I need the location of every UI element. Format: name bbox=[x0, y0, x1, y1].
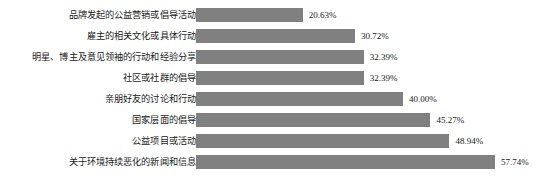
bar-row: 亲朋好友的讨论和行动 40.00% bbox=[0, 88, 557, 109]
bar-track: 57.74% bbox=[196, 151, 529, 172]
bar[interactable] bbox=[196, 29, 355, 43]
bar-row: 国家层面的倡导 45.27% bbox=[0, 109, 557, 130]
bar[interactable] bbox=[196, 92, 403, 106]
bar[interactable] bbox=[196, 155, 495, 169]
value-label: 32.39% bbox=[370, 73, 398, 83]
bar-row: 关于环境持续恶化的新闻和信息 57.74% bbox=[0, 151, 557, 172]
category-label: 亲朋好友的讨论和行动 bbox=[16, 93, 196, 104]
value-label: 48.94% bbox=[455, 136, 483, 146]
category-label: 雇主的相关文化或具体行动 bbox=[16, 30, 196, 41]
category-label: 公益项目或活动 bbox=[16, 135, 196, 146]
bar-row: 社区或社群的倡导 32.39% bbox=[0, 67, 557, 88]
bar[interactable] bbox=[196, 71, 364, 85]
bar-track: 30.72% bbox=[196, 25, 389, 46]
value-label: 32.39% bbox=[370, 52, 398, 62]
category-label: 社区或社群的倡导 bbox=[16, 72, 196, 83]
bar[interactable] bbox=[196, 113, 430, 127]
plot-area: 品牌发起的公益营销或倡导活动 20.63% 雇主的相关文化或具体行动 30.72… bbox=[0, 0, 557, 185]
bar-track: 32.39% bbox=[196, 67, 397, 88]
bar-track: 40.00% bbox=[196, 88, 437, 109]
bar-row: 明星、博主及意见领袖的行动和经验分享 32.39% bbox=[0, 46, 557, 67]
bar[interactable] bbox=[196, 134, 449, 148]
value-label: 30.72% bbox=[361, 31, 389, 41]
category-label: 国家层面的倡导 bbox=[16, 114, 196, 125]
horizontal-bar-chart: 品牌发起的公益营销或倡导活动 20.63% 雇主的相关文化或具体行动 30.72… bbox=[0, 0, 557, 185]
category-label: 关于环境持续恶化的新闻和信息 bbox=[16, 156, 196, 167]
value-label: 40.00% bbox=[409, 94, 437, 104]
bar-track: 48.94% bbox=[196, 130, 483, 151]
value-label: 57.74% bbox=[501, 157, 529, 167]
value-label: 45.27% bbox=[436, 115, 464, 125]
bar[interactable] bbox=[196, 50, 364, 64]
category-label: 明星、博主及意见领袖的行动和经验分享 bbox=[16, 51, 196, 62]
bar-row: 雇主的相关文化或具体行动 30.72% bbox=[0, 25, 557, 46]
category-label: 品牌发起的公益营销或倡导活动 bbox=[16, 9, 196, 20]
bar-track: 32.39% bbox=[196, 46, 397, 67]
bar-track: 20.63% bbox=[196, 4, 337, 25]
bar[interactable] bbox=[196, 8, 303, 22]
value-label: 20.63% bbox=[309, 10, 337, 20]
bar-row: 公益项目或活动 48.94% bbox=[0, 130, 557, 151]
bar-row: 品牌发起的公益营销或倡导活动 20.63% bbox=[0, 4, 557, 25]
bar-track: 45.27% bbox=[196, 109, 464, 130]
